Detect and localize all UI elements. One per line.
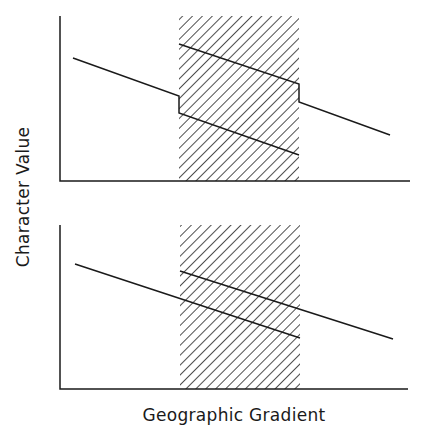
hatched-hybrid-zone: [179, 16, 299, 181]
bottom-panel: [60, 225, 408, 389]
hatched-hybrid-zone: [180, 225, 300, 389]
top-panel: [60, 16, 410, 181]
y-axis-label: Character Value: [13, 127, 33, 268]
x-axis-label: Geographic Gradient: [143, 405, 326, 425]
cline-diagram: Character Value Geographic Gradient: [0, 0, 430, 444]
